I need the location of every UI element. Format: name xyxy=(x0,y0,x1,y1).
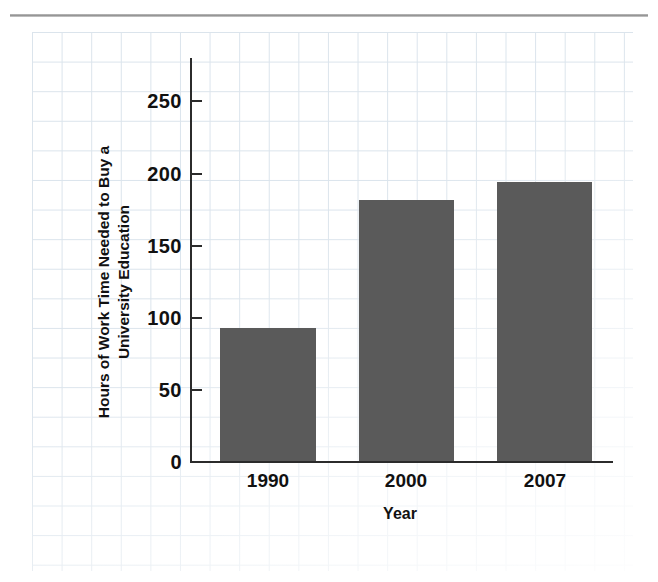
y-axis-title-line-2: University Education xyxy=(114,72,134,492)
bar-2007 xyxy=(497,182,592,461)
y-tick-mark-50 xyxy=(192,389,202,391)
y-tick-mark-200 xyxy=(192,173,202,175)
y-axis-title-line-1: Hours of Work Time Needed to Buy a xyxy=(94,72,114,492)
bar-2000 xyxy=(359,200,454,461)
x-axis-title: Year xyxy=(240,505,560,523)
chart-page: 250 200 150 100 50 0 1990 2000 2007 Year… xyxy=(0,0,658,582)
x-tick-label-1990: 1990 xyxy=(208,470,328,492)
y-tick-mark-100 xyxy=(192,317,202,319)
bar-chart-plot-area: 250 200 150 100 50 0 1990 2000 2007 Year… xyxy=(0,0,658,582)
y-tick-mark-150 xyxy=(192,245,202,247)
x-axis-line xyxy=(190,461,613,463)
y-axis-title: Hours of Work Time Needed to Buy a Unive… xyxy=(94,72,134,492)
x-tick-label-2000: 2000 xyxy=(346,470,466,492)
y-axis-line xyxy=(190,58,192,463)
x-tick-label-2007: 2007 xyxy=(485,470,605,492)
y-tick-mark-250 xyxy=(192,100,202,102)
bar-1990 xyxy=(220,328,316,461)
